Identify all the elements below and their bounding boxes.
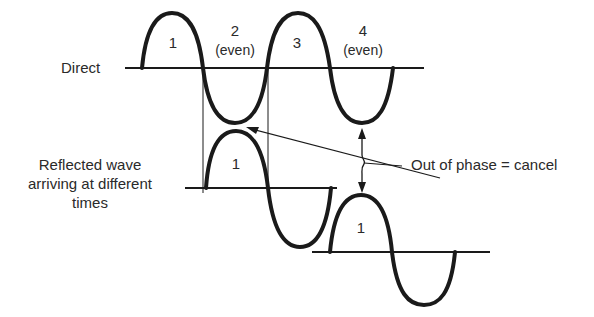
reflected-wave-1-label: 1 [229, 155, 243, 172]
segment-note-2: (even) [206, 42, 264, 58]
out-of-phase-annotation: Out of phase = cancel [411, 156, 557, 173]
segment-note-4: (even) [334, 42, 392, 58]
reflected-wave-2-label: 1 [354, 219, 368, 236]
segment-label-4: 4 [340, 22, 386, 39]
reflected-label: Reflected wave arriving at different tim… [10, 155, 170, 212]
segment-label-2: 2 [212, 22, 258, 39]
double-arrow-stem [362, 133, 365, 187]
direct-label: Direct [61, 59, 100, 76]
reflected-wave-2 [330, 195, 455, 305]
reflected-label-line-2: arriving at different [10, 174, 170, 193]
arrowhead-up-icon [358, 128, 366, 139]
segment-label-1: 1 [166, 34, 180, 51]
reflected-label-line-1: Reflected wave [10, 155, 170, 174]
arrowhead-down-icon [358, 182, 366, 193]
reflected-label-line-3: times [10, 193, 170, 212]
segment-label-3: 3 [290, 34, 304, 51]
multipath-phase-diagram: Direct 1 2 (even) 3 4 (even) Reflected w… [0, 0, 594, 317]
